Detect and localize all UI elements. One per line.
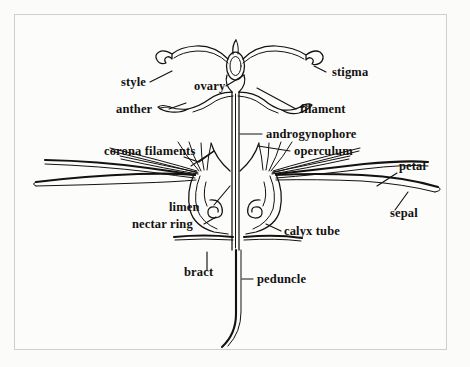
label-calyx-tube: calyx tube: [284, 224, 340, 238]
leader-style: [150, 71, 172, 82]
label-limen: limen: [169, 200, 200, 214]
label-ovary: ovary: [194, 79, 226, 93]
label-anther: anther: [116, 102, 153, 116]
label-sepal: sepal: [390, 206, 418, 220]
leader-anther: [169, 103, 186, 109]
leader-limen: [214, 186, 230, 205]
label-stigma: stigma: [332, 65, 369, 79]
leader-stigma: [314, 66, 326, 72]
label-peduncle: peduncle: [257, 272, 306, 286]
label-style: style: [121, 75, 146, 89]
figure-page: style ovary stigma anther filament andro…: [0, 0, 470, 367]
bract-part: [174, 236, 302, 242]
label-bract: bract: [184, 265, 214, 279]
ovary-part: [226, 52, 245, 92]
label-operculum: operculum: [294, 144, 353, 158]
label-androgynophore: androgynophore: [266, 127, 357, 141]
leader-calyx-tube: [266, 224, 281, 231]
peduncle-part: [222, 250, 241, 347]
botanical-diagram: style ovary stigma anther filament andro…: [14, 14, 447, 350]
sepal-part: [34, 174, 441, 192]
label-corona-filaments: corona filaments: [104, 144, 195, 158]
label-nectar-ring: nectar ring: [132, 217, 193, 231]
leader-nectar-ring: [204, 217, 216, 224]
label-petal: petal: [399, 159, 427, 173]
label-filament: filament: [300, 102, 346, 116]
leader-operculum: [258, 146, 290, 151]
androgynophore-part: [232, 92, 239, 250]
